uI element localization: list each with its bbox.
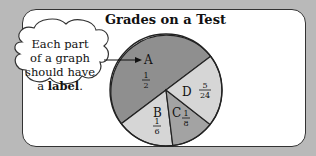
- callout-line: should have: [14, 65, 106, 79]
- slice-a-num: 1: [143, 71, 148, 80]
- callout-line: a label.: [14, 79, 106, 93]
- slice-a-den: 2: [143, 81, 148, 90]
- callout-line: of a graph: [14, 51, 106, 65]
- slice-d-letter: D: [182, 85, 192, 99]
- slice-d-num: 5: [202, 81, 207, 90]
- callout-line: Each part: [14, 37, 106, 51]
- slice-d-den: 24: [200, 91, 210, 100]
- slice-b-num: 1: [154, 117, 159, 126]
- slice-c-den: 8: [183, 119, 188, 128]
- callout-bold-word: label: [48, 79, 80, 93]
- callout-text: Each part of a graph should have a label…: [14, 37, 106, 93]
- slice-c-letter: C: [172, 106, 181, 120]
- slice-c-num: 1: [183, 109, 188, 118]
- slice-b-den: 6: [154, 127, 159, 136]
- slice-a-letter: A: [143, 53, 153, 67]
